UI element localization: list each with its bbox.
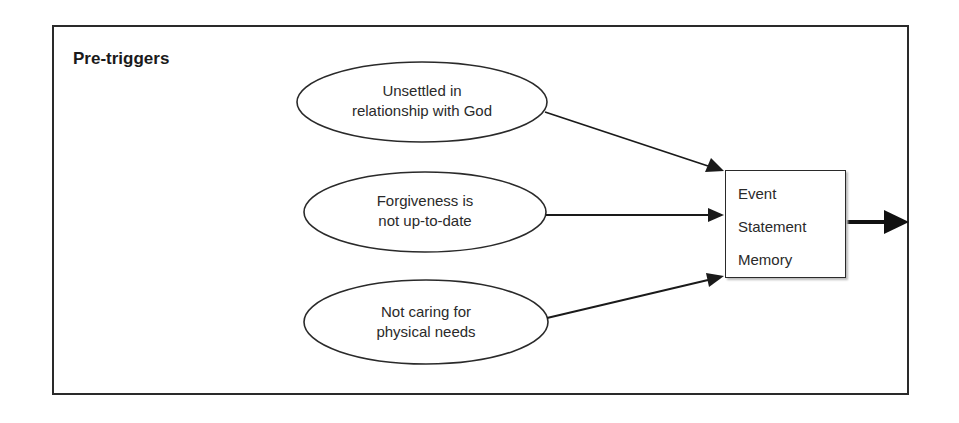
box-line-event: Event (738, 177, 845, 210)
bold-output-arrow (846, 210, 909, 234)
target-box: Event Statement Memory (725, 170, 846, 278)
node-1-line-1: Unsettled in (307, 81, 537, 101)
node-3-label: Not caring for physical needs (311, 302, 541, 342)
node-3-line-1: Not caring for (311, 302, 541, 322)
arrow-node-1-to-box (545, 112, 724, 172)
node-2-line-1: Forgiveness is (310, 191, 540, 211)
node-1-label: Unsettled in relationship with God (307, 81, 537, 121)
box-line-statement: Statement (738, 210, 845, 243)
arrow-node-3-to-box (547, 273, 724, 318)
node-1-line-2: relationship with God (307, 101, 537, 121)
node-2-line-2: not up-to-date (310, 211, 540, 231)
box-line-memory: Memory (738, 243, 845, 276)
arrow-node-2-to-box (546, 208, 724, 222)
node-2-label: Forgiveness is not up-to-date (310, 191, 540, 231)
node-3-line-2: physical needs (311, 322, 541, 342)
